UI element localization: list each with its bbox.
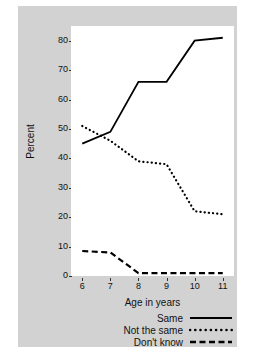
y-tick-label: 10 [42,242,68,251]
y-tick-label: 30 [42,183,68,192]
series-line-not-the-same [82,126,223,214]
x-tick-label: 9 [157,281,177,291]
y-axis-ticks: 80706050403020100 [38,26,68,276]
legend-swatch-dotted [189,325,233,335]
legend-label: Not the same [124,325,183,336]
y-tick-label: 0 [42,271,68,280]
y-tick-label: 20 [42,212,68,221]
y-tick-mark [69,276,72,277]
figure-panel: Percent 80706050403020100 67891011 Age i… [18,6,237,347]
chart-legend: SameNot the sameDon't know [78,312,233,348]
series-line-same [82,38,223,144]
x-tick-label: 8 [128,281,148,291]
legend-swatch-dashed [189,337,233,347]
legend-item: Don't know [78,336,233,348]
y-tick-label: 60 [42,95,68,104]
x-axis-ticks: 67891011 [71,278,234,298]
legend-item: Same [78,312,233,324]
y-tick-label: 80 [42,36,68,45]
chart-lines [71,26,234,276]
y-tick-label: 40 [42,153,68,162]
x-axis-label: Age in years [71,297,234,308]
legend-label: Same [157,313,183,324]
x-tick-label: 11 [213,281,233,291]
x-tick-label: 6 [72,281,92,291]
y-tick-label: 50 [42,124,68,133]
legend-item: Not the same [78,324,233,336]
legend-swatch-solid [189,313,233,323]
y-tick-label: 70 [42,65,68,74]
x-tick-label: 10 [185,281,205,291]
y-axis-label: Percent [25,112,36,172]
series-line-dont-know [82,251,223,273]
plot-area [71,26,234,276]
x-tick-label: 7 [100,281,120,291]
legend-label: Don't know [134,337,183,348]
